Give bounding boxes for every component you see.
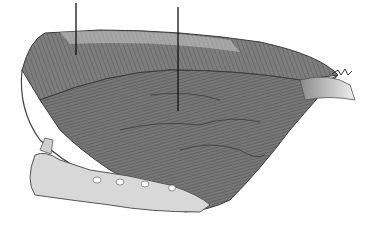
tendon xyxy=(300,77,355,100)
illustration-canvas xyxy=(0,0,375,227)
anatomy-illustration xyxy=(0,0,375,227)
